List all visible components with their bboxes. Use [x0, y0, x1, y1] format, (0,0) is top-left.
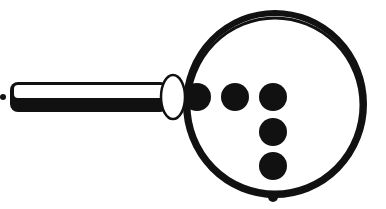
- dot-1: [183, 83, 211, 111]
- magnifier-dots-symbol: [0, 0, 386, 209]
- dot-2: [221, 83, 249, 111]
- dot-4: [259, 118, 287, 146]
- dot-5: [259, 152, 287, 180]
- connector-ellipse: [161, 75, 185, 119]
- tail-dot: [268, 192, 278, 202]
- symbol-group: [0, 13, 364, 202]
- lead-dot: [0, 94, 6, 100]
- diagram-canvas: [0, 0, 386, 209]
- dot-3: [259, 83, 287, 111]
- rod-highlight: [14, 85, 168, 98]
